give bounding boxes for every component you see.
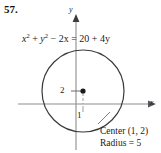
y-axis-arrowhead — [73, 14, 80, 22]
annotation-leader-line — [98, 112, 110, 124]
x-axis-label: x — [150, 98, 154, 107]
x-tick-label-1: 1 — [77, 110, 82, 120]
y-tick-label-2: 2 — [60, 85, 65, 95]
center-point-dot — [80, 88, 85, 93]
y-axis-label: y — [69, 5, 73, 14]
center-annotation: Center (1, 2) — [100, 126, 148, 136]
figure-page: 57. x2 + y2 − 2x = 20 + 4y y x 2 1 Cente… — [0, 0, 161, 153]
radius-annotation: Radius = 5 — [100, 138, 141, 148]
